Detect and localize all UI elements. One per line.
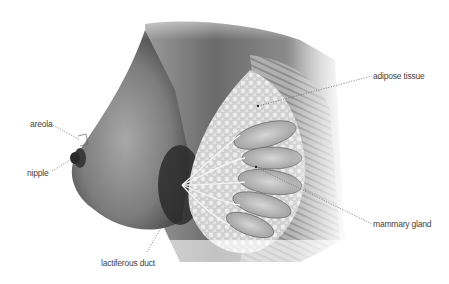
nipple-shape bbox=[70, 152, 80, 164]
breast-illustration bbox=[0, 0, 449, 284]
anatomy-diagram: areola nipple adipose tissue mammary gla… bbox=[0, 0, 449, 284]
label-lactiferous-duct: lactiferous duct bbox=[101, 258, 155, 268]
areola-bracket bbox=[78, 134, 88, 146]
leader-lactiferous bbox=[147, 226, 162, 252]
leader-areola bbox=[53, 125, 80, 140]
label-adipose-tissue: adipose tissue bbox=[373, 71, 425, 81]
label-areola: areola bbox=[30, 119, 52, 129]
leader-nipple bbox=[52, 160, 70, 171]
label-nipple: nipple bbox=[27, 168, 49, 178]
label-mammary-gland: mammary gland bbox=[373, 219, 431, 229]
